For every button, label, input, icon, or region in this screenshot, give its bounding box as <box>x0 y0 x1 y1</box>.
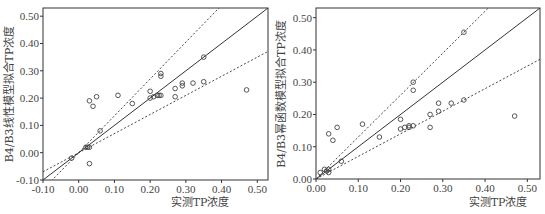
y-axis-title: B4/B3线性模型拟合TP浓度 <box>2 26 16 163</box>
right-scatter-panel: 0.000.100.200.300.400.50 0.000.100.200.3… <box>272 0 545 214</box>
y-tick-label: 0.40 <box>293 44 313 56</box>
x-tick-label: 0.50 <box>518 182 538 194</box>
y-axis-ticks: 0.000.100.200.300.400.50 <box>293 12 316 185</box>
y-tick-label: 0.20 <box>20 92 40 104</box>
x-tick-label: 0.40 <box>475 182 495 194</box>
y-tick-label: 0.10 <box>293 141 313 153</box>
x-tick-label: 0.00 <box>69 183 89 195</box>
x-tick-label: 0.20 <box>141 183 161 195</box>
y-tick-label: 0.40 <box>20 37 40 49</box>
x-axis-title: 实测TP浓度 <box>171 195 230 209</box>
y-tick-label: 0.30 <box>20 65 40 77</box>
x-tick-label: 0.30 <box>176 183 196 195</box>
right-scatter-plot: 0.000.100.200.300.400.50 0.000.100.200.3… <box>272 0 545 214</box>
x-tick-label: 0.10 <box>105 183 125 195</box>
x-axis-ticks: -0.100.000.100.200.300.400.50 <box>32 180 268 195</box>
x-axis-ticks: 0.000.100.200.300.400.50 <box>306 179 537 194</box>
y-tick-label: -0.10 <box>16 174 39 186</box>
y-tick-label: 0.10 <box>20 119 40 131</box>
x-tick-label: 0.40 <box>212 183 232 195</box>
x-tick-label: 0.30 <box>433 182 453 194</box>
y-tick-label: 0.00 <box>293 173 313 185</box>
y-tick-label: 0.50 <box>20 10 40 22</box>
y-axis-ticks: -0.100.000.100.200.300.400.50 <box>16 10 43 186</box>
x-tick-label: 0.20 <box>391 182 411 194</box>
y-tick-label: 0.50 <box>293 12 313 24</box>
x-axis-title: 实测TP浓度 <box>469 195 528 209</box>
x-tick-label: 0.50 <box>248 183 268 195</box>
y-tick-label: 0.30 <box>293 76 313 88</box>
y-tick-label: 0.00 <box>20 147 40 159</box>
y-axis-title: B4/B3幂函数模型拟合TP浓度 <box>274 20 288 168</box>
y-tick-label: 0.20 <box>293 108 313 120</box>
left-scatter-plot: -0.100.000.100.200.300.400.50 -0.100.000… <box>0 0 272 214</box>
x-tick-label: 0.10 <box>349 182 369 194</box>
left-scatter-panel: -0.100.000.100.200.300.400.50 -0.100.000… <box>0 0 272 214</box>
